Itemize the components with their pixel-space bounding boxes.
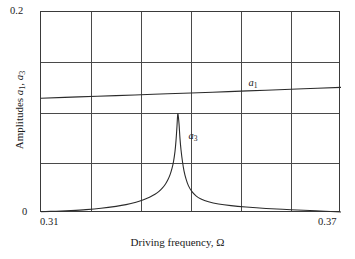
y-axis-var-a1: a1 bbox=[13, 86, 25, 95]
y-axis-title-text: Amplitudes bbox=[13, 95, 25, 149]
x-tick-label-min: 0.31 bbox=[40, 217, 58, 228]
chart-figure: Amplitudes a1, a3 0.2 0 0.31 0.37 Drivin… bbox=[0, 0, 355, 259]
x-axis-title: Driving frequency, Ω bbox=[0, 236, 355, 248]
x-tick-label-max: 0.37 bbox=[318, 217, 336, 228]
plot-area: a1 a3 bbox=[40, 11, 340, 212]
a3-curve-label: a3 bbox=[189, 130, 198, 143]
y-tick-label-min: 0 bbox=[22, 207, 27, 218]
a1-curve-label: a1 bbox=[249, 77, 258, 90]
y-tick-label-max: 0.2 bbox=[10, 6, 23, 17]
series-line-a1 bbox=[41, 87, 341, 98]
curves-layer bbox=[41, 12, 341, 213]
y-axis-var-a3: a3 bbox=[13, 71, 25, 80]
y-axis-title: Amplitudes a1, a3 bbox=[13, 30, 27, 190]
series-line-a3 bbox=[41, 114, 341, 212]
